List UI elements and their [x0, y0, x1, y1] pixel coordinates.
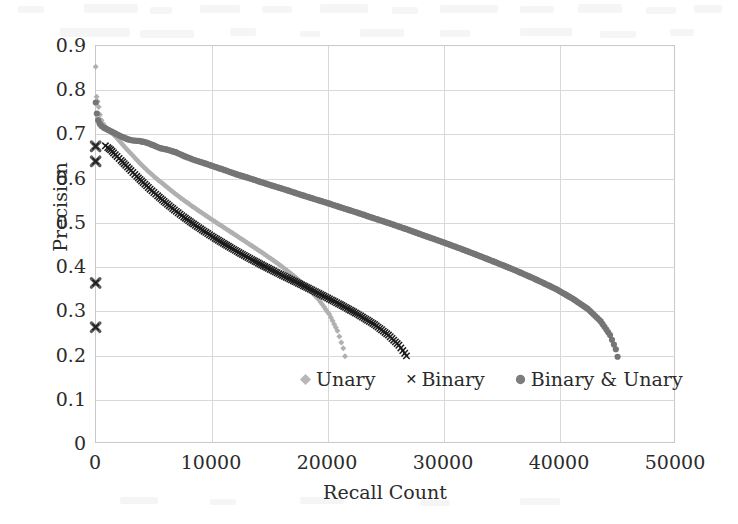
y-tick-label: 0.7	[6, 122, 86, 144]
x-tick-label: 50000	[645, 451, 705, 473]
legend-label: Binary	[421, 370, 484, 389]
y-tick-label: 0.9	[6, 34, 86, 56]
x-tick-label: 20000	[297, 451, 357, 473]
precision-recall-chart: 0.9 0.8 0.7 0.6 0.5 0.4 0.3 0.2 0.1 0 0 …	[0, 0, 738, 524]
legend-label: Binary & Unary	[531, 370, 683, 389]
circle-icon	[516, 375, 525, 384]
chart-legend: Unary ✕ Binary Binary & Unary	[300, 370, 683, 389]
gridline-h	[96, 134, 674, 135]
legend-label: Unary	[316, 370, 375, 389]
y-tick-label: 0.3	[6, 299, 86, 321]
x-tick-label: 40000	[529, 451, 589, 473]
diamond-icon	[300, 374, 311, 385]
y-tick-label: 0.6	[6, 167, 86, 189]
y-tick-label: 0.8	[6, 78, 86, 100]
y-tick-label: 0.2	[6, 344, 86, 366]
gridline-h	[96, 356, 674, 357]
y-tick-label: 0.4	[6, 255, 86, 277]
y-tick-label: 0.1	[6, 388, 86, 410]
gridline-h	[96, 311, 674, 312]
x-tick-label: 10000	[181, 451, 241, 473]
gridline-v	[212, 46, 213, 442]
gridline-h	[96, 179, 674, 180]
cross-icon: ✕	[405, 374, 416, 385]
x-axis-title: Recall Count	[95, 481, 675, 503]
legend-entry-unary[interactable]: Unary	[300, 370, 375, 389]
gridline-h	[96, 90, 674, 91]
legend-entry-binary-unary[interactable]: Binary & Unary	[515, 370, 683, 389]
y-tick-label: 0	[6, 432, 86, 454]
x-tick-label: 0	[89, 451, 101, 473]
y-tick-label: 0.5	[6, 211, 86, 233]
legend-entry-binary[interactable]: ✕ Binary	[405, 370, 484, 389]
gridline-h	[96, 267, 674, 268]
gridline-h	[96, 400, 674, 401]
x-tick-label: 30000	[413, 451, 473, 473]
y-axis-title: Precision	[49, 107, 71, 307]
gridline-h	[96, 223, 674, 224]
